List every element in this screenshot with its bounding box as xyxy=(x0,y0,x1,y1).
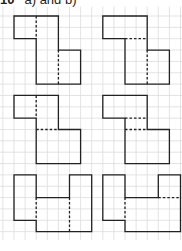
shape-row3-right xyxy=(103,175,181,232)
shape-row3-left xyxy=(14,175,92,232)
square-grid xyxy=(0,7,182,240)
net-diagrams-figure xyxy=(0,0,182,251)
shape-outline xyxy=(14,175,92,232)
shapes-layer xyxy=(14,16,181,232)
shape-outline xyxy=(103,175,181,232)
